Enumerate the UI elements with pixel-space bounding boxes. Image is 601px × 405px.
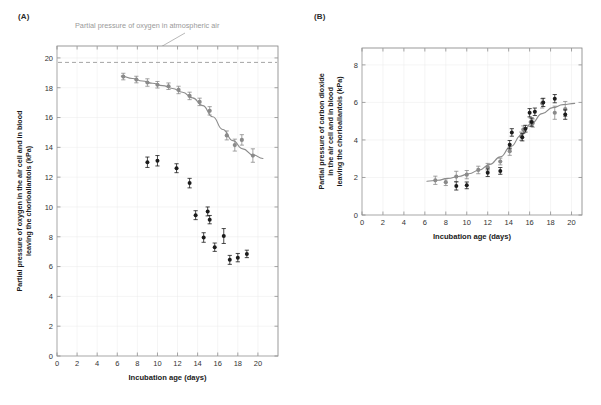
marker bbox=[541, 100, 545, 104]
y-axis-title-b: Partial pressure of carbon dioxidein the… bbox=[317, 73, 344, 189]
annotation-text: Partial pressure of oxygen in atmospheri… bbox=[75, 21, 220, 30]
marker bbox=[508, 149, 512, 153]
y-axis-title-line: Partial pressure of oxygen in the air ce… bbox=[15, 111, 24, 292]
x-tick-label: 8 bbox=[444, 218, 448, 227]
marker bbox=[121, 74, 125, 78]
marker bbox=[553, 111, 557, 115]
marker bbox=[240, 138, 244, 142]
x-tick-label: 12 bbox=[173, 359, 181, 368]
marker bbox=[508, 143, 512, 147]
panel-a-plot: Partial pressure of oxygen in atmospheri… bbox=[0, 0, 300, 405]
marker bbox=[465, 183, 469, 187]
marker bbox=[498, 169, 502, 173]
marker bbox=[553, 97, 557, 101]
x-tick-label: 16 bbox=[525, 218, 533, 227]
y-tick-label: 0 bbox=[49, 352, 53, 361]
x-tick-label: 4 bbox=[95, 359, 99, 368]
y-tick-label: 0 bbox=[354, 211, 358, 220]
x-tick-label: 10 bbox=[463, 218, 471, 227]
marker bbox=[476, 168, 480, 172]
x-tick-label: 4 bbox=[402, 218, 406, 227]
x-axis-title-a: Incubation age (days) bbox=[128, 373, 207, 382]
x-tick-label: 18 bbox=[546, 218, 554, 227]
marker bbox=[454, 174, 458, 178]
x-tick-label: 6 bbox=[115, 359, 119, 368]
marker bbox=[134, 77, 138, 81]
panel-b-label: (B) bbox=[314, 12, 326, 21]
x-tick-label: 12 bbox=[484, 218, 492, 227]
x-tick-label: 16 bbox=[214, 359, 222, 368]
x-tick-label: 6 bbox=[423, 218, 427, 227]
marker bbox=[563, 113, 567, 117]
y-tick-label: 4 bbox=[354, 136, 358, 145]
x-axis-title-b: Incubation age (days) bbox=[433, 232, 512, 241]
marker bbox=[523, 127, 527, 131]
marker bbox=[166, 84, 170, 88]
marker bbox=[486, 165, 490, 169]
marker bbox=[145, 160, 149, 164]
y-axis-title-a: Partial pressure of oxygen in the air ce… bbox=[15, 111, 33, 292]
marker bbox=[188, 94, 192, 98]
marker bbox=[233, 143, 237, 147]
marker bbox=[145, 80, 149, 84]
x-tick-label: 20 bbox=[567, 218, 575, 227]
marker bbox=[194, 213, 198, 217]
y-axis-title-line: in the air cell and in blood bbox=[326, 87, 335, 176]
marker bbox=[176, 88, 180, 92]
y-tick-label: 2 bbox=[354, 173, 358, 182]
marker bbox=[155, 83, 159, 87]
y-axis-title-line: leaving the chorioallantois (kPa) bbox=[335, 76, 344, 187]
marker bbox=[208, 218, 212, 222]
x-tick-label: 14 bbox=[193, 359, 201, 368]
marker bbox=[208, 109, 212, 113]
y-tick-label: 6 bbox=[49, 262, 53, 271]
y-tick-label: 20 bbox=[45, 54, 53, 63]
y-tick-label: 8 bbox=[49, 233, 53, 242]
y-tick-label: 2 bbox=[49, 322, 53, 331]
x-tick-label: 20 bbox=[254, 359, 262, 368]
figure-root: (A) Partial pressure of oxygen in atmosp… bbox=[0, 0, 601, 405]
marker bbox=[155, 159, 159, 163]
marker bbox=[188, 181, 192, 185]
x-tick-label: 2 bbox=[381, 218, 385, 227]
x-tick-label: 0 bbox=[360, 218, 364, 227]
marker bbox=[444, 180, 448, 184]
y-tick-label: 14 bbox=[45, 143, 53, 152]
marker bbox=[454, 184, 458, 188]
plot-frame-b bbox=[362, 48, 582, 215]
y-tick-label: 10 bbox=[45, 203, 53, 212]
marker bbox=[465, 173, 469, 177]
marker bbox=[251, 153, 255, 157]
y-tick-label: 4 bbox=[49, 292, 53, 301]
x-tick-label: 18 bbox=[234, 359, 242, 368]
marker bbox=[228, 258, 232, 262]
marker bbox=[213, 245, 217, 249]
panel-a: (A) Partial pressure of oxygen in atmosp… bbox=[0, 0, 300, 405]
panel-b-plot: 0246810121416182002468 Incubation age (d… bbox=[300, 0, 601, 405]
marker bbox=[245, 252, 249, 256]
y-tick-label: 18 bbox=[45, 84, 53, 93]
marker bbox=[175, 166, 179, 170]
y-tick-label: 6 bbox=[354, 98, 358, 107]
marker bbox=[520, 135, 524, 139]
marker bbox=[530, 120, 534, 124]
panel-b: (B) 0246810121416182002468 Incubation ag… bbox=[300, 0, 601, 405]
y-tick-label: 8 bbox=[354, 61, 358, 70]
marker bbox=[433, 178, 437, 182]
marker bbox=[498, 159, 502, 163]
x-tick-label: 8 bbox=[135, 359, 139, 368]
plot-frame-a bbox=[57, 46, 278, 356]
x-tick-label: 14 bbox=[504, 218, 512, 227]
y-tick-label: 12 bbox=[45, 173, 53, 182]
x-tick-label: 0 bbox=[55, 359, 59, 368]
marker bbox=[528, 111, 532, 115]
x-tick-label: 10 bbox=[153, 359, 161, 368]
y-axis-title-line: Partial pressure of carbon dioxide bbox=[317, 73, 326, 189]
marker bbox=[510, 130, 514, 134]
marker bbox=[236, 256, 240, 260]
panel-a-label: (A) bbox=[18, 12, 30, 21]
marker bbox=[202, 236, 206, 240]
x-tick-label: 2 bbox=[75, 359, 79, 368]
marker bbox=[206, 209, 210, 213]
marker bbox=[533, 110, 537, 114]
